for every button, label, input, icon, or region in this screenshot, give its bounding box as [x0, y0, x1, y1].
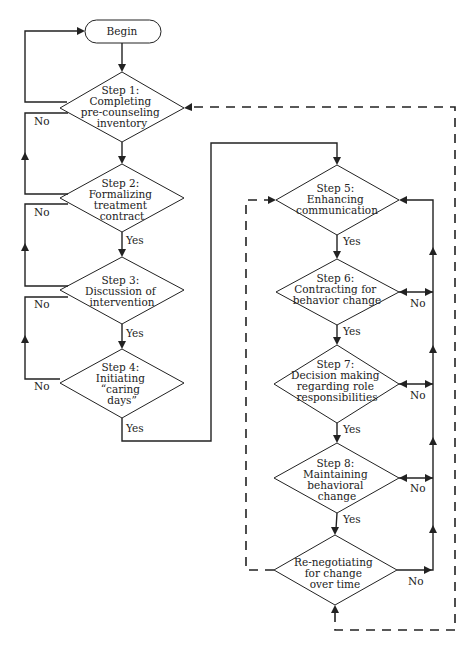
label-no-step3: No	[34, 298, 50, 310]
label-no-step6: No	[410, 297, 426, 309]
arrowhead-icon	[425, 474, 433, 482]
arrowhead-icon	[77, 27, 85, 35]
arrowhead-icon	[399, 196, 407, 204]
arrowhead-icon	[425, 380, 433, 388]
label-yes-step6: Yes	[342, 325, 361, 337]
label-yes-step7: Yes	[342, 423, 361, 435]
arrowhead-icon	[399, 380, 407, 388]
arrowhead-icon	[424, 566, 432, 574]
label-no-step9: No	[408, 575, 424, 587]
label-no-step7: No	[410, 389, 426, 401]
arrowhead-icon	[118, 341, 126, 349]
label-no-step8: No	[410, 482, 426, 494]
label-yes-step3: Yes	[125, 327, 144, 339]
begin-label: Begin	[107, 25, 138, 37]
arrowhead-icon	[118, 64, 126, 72]
arrowhead-icon	[333, 337, 341, 345]
arrowhead-icon	[118, 156, 126, 164]
arrowhead-icon	[184, 103, 192, 111]
arrowhead-icon	[425, 288, 433, 296]
edge-step8-step9	[336, 513, 337, 529]
arrowhead-icon	[21, 243, 29, 251]
arrowhead-icon	[331, 605, 339, 613]
arrowhead-icon	[399, 288, 407, 296]
arrowhead-icon	[429, 437, 437, 445]
label-yes-step5: Yes	[342, 235, 361, 247]
edge-dashed-step9-step5	[246, 200, 274, 570]
arrowhead-icon	[429, 345, 437, 353]
arrowhead-icon	[118, 249, 126, 257]
label-no-step1: No	[34, 115, 50, 127]
label-yes-step8: Yes	[342, 513, 361, 525]
label-yes-step4: Yes	[125, 422, 144, 434]
flowchart-canvas: Begin Step 1: Completing pre-counseling …	[0, 0, 476, 653]
label-no-step4: No	[34, 380, 50, 392]
arrowhead-icon	[21, 335, 29, 343]
arrowhead-icon	[333, 435, 341, 443]
arrowhead-icon	[268, 196, 276, 204]
arrowhead-icon	[429, 247, 437, 255]
arrowhead-icon	[331, 527, 339, 535]
arrowhead-icon	[429, 525, 437, 533]
arrowhead-icon	[21, 152, 29, 160]
arrowhead-icon	[333, 251, 341, 259]
label-no-step2: No	[34, 206, 50, 218]
label-yes-step2: Yes	[125, 234, 144, 246]
arrowhead-icon	[399, 474, 407, 482]
arrowhead-icon	[333, 157, 341, 165]
edge-step1-begin	[25, 31, 79, 102]
